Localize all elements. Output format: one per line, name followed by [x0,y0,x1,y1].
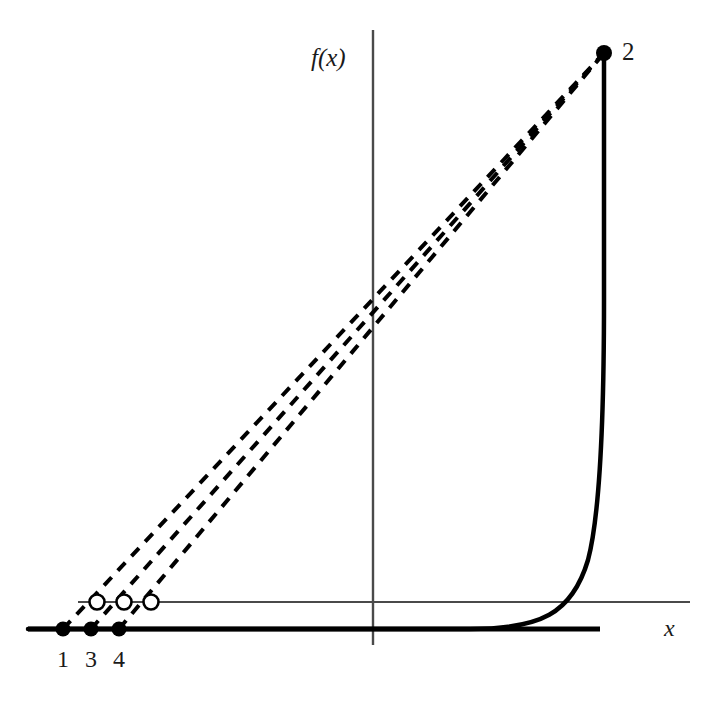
open-point-1 [90,595,105,610]
point-label-1: 1 [52,646,74,673]
domain-point-4 [112,622,127,637]
open-point-3 [144,595,159,610]
diagram-canvas [0,0,713,706]
converge-point-2 [596,45,612,61]
domain-point-1 [56,622,71,637]
point-label-4: 4 [108,646,130,673]
domain-point-3 [84,622,99,637]
function-diagram: f(x) x 2 1 3 4 [0,0,713,706]
domain-points-group [56,622,127,637]
secant-line-from-4 [119,53,604,629]
x-axis-label: x [664,615,675,642]
secant-line-from-1 [63,53,604,629]
point-label-3: 3 [80,646,102,673]
point-label-2: 2 [622,38,635,66]
secant-line-from-3 [91,53,604,629]
open-points-group [90,595,159,610]
open-point-2 [117,595,132,610]
y-axis-label: f(x) [311,44,346,72]
secant-lines-group [63,53,604,629]
function-curve [28,53,604,629]
